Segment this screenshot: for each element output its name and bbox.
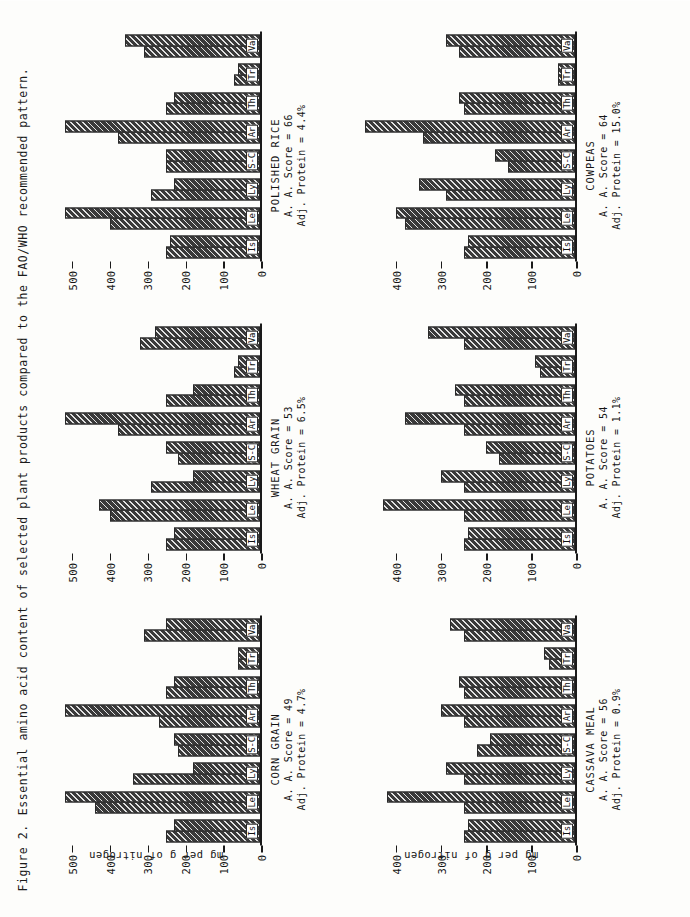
y-tick-mark [531,261,532,268]
y-tick-mark [531,553,532,560]
bar-group: Tr [365,644,575,673]
bar-group: Tr [365,352,575,381]
category-label: Th [246,96,258,110]
y-tick-mark [148,261,149,268]
category-label: Is [561,239,573,253]
bar-group: Va [50,615,260,644]
bar-stack [365,207,575,229]
bar-group: S-C [365,730,575,759]
bar-group: Th [365,381,575,410]
y-tick-label: 400 [391,854,403,874]
bar-reference [144,45,260,57]
bar-stack [50,819,260,841]
bar-series-group: IsLeLyS-CArThTrVa [50,31,260,261]
y-tick-mark [72,845,73,852]
y-tick-label: 0 [256,854,268,861]
category-label: Le [246,211,258,225]
bar-group: S-C [365,146,575,175]
y-tick-mark [576,845,577,852]
category-label: Tr [246,651,258,665]
panel-caption: CASSAVA MEALA. A. Score = 56Adj. Protein… [584,607,623,891]
category-label: Th [561,388,573,402]
panel-title: CORN GRAIN [269,607,281,891]
y-tick-mark [223,261,224,268]
bar-reference [140,337,260,349]
panel-adj-protein: Adj. Protein = 0.9% [611,607,624,891]
panel-caption: CORN GRAINA. A. Score = 49Adj. Protein =… [269,607,308,891]
y-tick-label: 500 [67,854,79,874]
panel-adj-protein: Adj. Protein = 4.4% [296,23,309,307]
y-tick-mark [396,261,397,268]
y-tick-mark [486,261,487,268]
bar-value [468,235,575,247]
chart-panel-potatoes: 0100200300400IsLeLyS-CArThTrVaPOTATOESA.… [359,311,674,603]
category-label: Tr [561,359,573,373]
y-tick-mark [186,553,187,560]
y-tick-label: 100 [526,562,538,582]
figure-caption-text: Essential amino acid content of selected… [16,67,30,814]
bar-series-group: IsLeLyS-CArThTrVa [365,31,575,261]
category-label: Le [246,503,258,517]
panel-title: CASSAVA MEAL [584,607,596,891]
panel-title: COWPEAS [584,23,596,307]
y-axis-title: mg per g of nitrogen [404,850,538,862]
bar-group: Tr [50,352,260,381]
bar-stack [50,441,260,463]
bar-group: Is [50,232,260,261]
category-label: Is [561,531,573,545]
bar-group: Th [50,89,260,118]
y-axis: 0100200300400500 [50,553,262,599]
category-label: S-C [246,735,258,755]
bar-group: Tr [365,60,575,89]
y-tick-label: 400 [105,270,117,290]
plot-area: 0100200300400IsLeLyS-CArThTrVa [365,31,577,261]
y-axis-title: mg per g of nitrogen [89,850,223,862]
bar-group: Is [365,232,575,261]
figure-number: Figure 2. [16,824,30,891]
panel-title: POLISHED RICE [269,23,281,307]
panel-caption: POTATOESA. A. Score = 54Adj. Protein = 1… [584,315,623,599]
category-label: Ar [246,416,258,430]
bar-group: Ar [50,409,260,438]
bar-value [468,527,575,539]
bar-reference [144,629,260,641]
bar-stack [50,470,260,492]
bar-value [65,120,260,132]
panel-title: POTATOES [584,315,596,599]
bar-reference [464,773,576,785]
category-label: Is [246,823,258,837]
bar-stack [365,441,575,463]
y-tick-label: 300 [142,270,154,290]
bar-value [65,704,260,716]
bar-stack [365,527,575,549]
category-label: Le [561,503,573,517]
bar-group: Va [50,31,260,60]
bar-group: Th [50,381,260,410]
bar-group: Is [50,524,260,553]
bar-stack [365,791,575,813]
bar-reference [464,423,576,435]
bar-group: Ly [365,467,575,496]
bar-value [459,92,575,104]
bar-stack [50,412,260,434]
bar-stack [50,499,260,521]
bar-value [428,326,576,338]
bar-group: Is [365,816,575,845]
panel-adj-protein: Adj. Protein = 1.1% [611,315,624,599]
category-label: Ly [246,474,258,488]
bar-stack [365,762,575,784]
bar-stack [365,34,575,56]
y-tick-label: 0 [256,270,268,277]
bar-stack [50,149,260,171]
panel-aa-score: A. A. Score = 56 [598,607,611,891]
bar-stack [50,527,260,549]
y-tick-mark [441,553,442,560]
plot-area: 0100200300400500IsLeLyS-CArThTrVa [50,323,262,553]
category-label: Ar [561,708,573,722]
bar-group: Is [50,816,260,845]
bar-reference [459,45,575,57]
panel-adj-protein: Adj. Protein = 4.7% [296,607,309,891]
bar-reference [464,481,576,493]
bar-reference [110,217,260,229]
bar-value [99,499,261,511]
